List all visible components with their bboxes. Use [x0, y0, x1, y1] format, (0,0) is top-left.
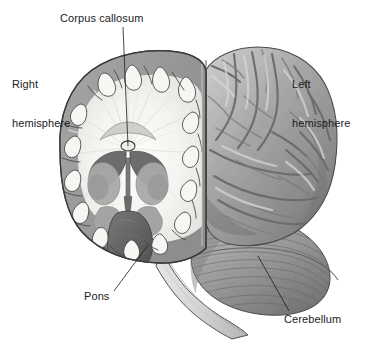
- label-cerebellum: Cerebellum: [284, 313, 341, 326]
- label-left-hemisphere: Left hemisphere: [292, 52, 350, 156]
- right-hemisphere-coronal-section: [60, 51, 206, 278]
- label-corpus-callosum: Corpus callosum: [60, 12, 143, 25]
- label-right-hemisphere-line2: hemisphere: [12, 117, 70, 130]
- label-left-hemisphere-line1: Left: [292, 78, 350, 91]
- label-left-hemisphere-line2: hemisphere: [292, 117, 350, 130]
- label-right-hemisphere-line1: Right: [12, 78, 70, 91]
- label-right-hemisphere: Right hemisphere: [12, 52, 70, 156]
- label-pons: Pons: [84, 290, 109, 303]
- brain-anatomy-figure: Corpus callosum Right hemisphere Left he…: [0, 0, 370, 347]
